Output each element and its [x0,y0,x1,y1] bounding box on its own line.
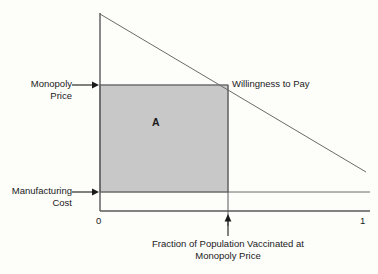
manufacturing-cost-arrow [72,189,99,196]
manufacturing-cost-label-line1: Manufacturing [0,185,72,197]
economics-diagram [0,0,378,274]
monopoly-price-arrow [72,82,99,89]
quantity-caption-arrow [225,214,232,236]
x-axis-tick-1: 1 [360,215,365,227]
x-axis-caption-line1: Fraction of Population Vaccinated at [108,238,348,250]
willingness-to-pay-label: Willingness to Pay [232,78,310,90]
monopoly-price-label-line1: Monopoly [0,78,72,90]
area-a-rectangle [100,85,228,192]
manufacturing-cost-label-line2: Cost [0,197,72,209]
diagram-canvas [0,0,378,274]
monopoly-price-label: Monopoly Price [0,78,72,101]
x-axis-tick-0: 0 [96,215,101,227]
manufacturing-cost-label: Manufacturing Cost [0,185,72,208]
area-a-label: A [152,117,160,129]
x-axis-caption: Fraction of Population Vaccinated at Mon… [108,238,348,261]
x-axis-caption-line2: Monopoly Price [108,250,348,262]
monopoly-price-label-line2: Price [0,90,72,102]
